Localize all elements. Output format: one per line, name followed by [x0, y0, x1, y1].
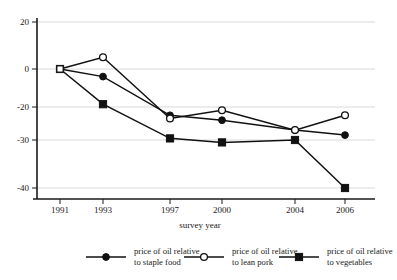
data-point-filled-square: [218, 139, 225, 146]
data-point-filled-square: [341, 184, 348, 191]
y-tick-label-neg20: -20: [17, 102, 29, 112]
data-point-filled-circle: [219, 117, 226, 124]
series-line-1: [60, 57, 345, 130]
x-tick-label-1993: 1993: [94, 205, 113, 215]
data-point-filled-circle: [342, 132, 349, 139]
data-point-open-circle: [342, 112, 349, 119]
x-tick-label-2000: 2000: [213, 205, 232, 215]
legend-label-vegetables-line1: price of oil relative: [327, 248, 393, 256]
data-point-filled-square: [291, 136, 298, 143]
data-point-open-circle: [219, 107, 226, 114]
y-tick-label-neg30: -30: [17, 135, 29, 145]
y-tick-label-0: 0: [25, 64, 30, 74]
y-tick-label-20: 20: [20, 17, 30, 27]
data-point-open-circle: [100, 54, 107, 61]
series-2: [56, 65, 348, 191]
x-tick-label-2004: 2004: [286, 205, 305, 215]
data-point-filled-square: [99, 101, 106, 108]
legend-label-lean-pork-line2: to lean pork: [232, 257, 274, 267]
legend-label-staple-food-line2: to staple food: [134, 257, 181, 267]
data-point-open-circle: [292, 127, 299, 134]
filled-square-icon: [295, 253, 302, 260]
y-tick-label-neg40: -40: [17, 183, 29, 193]
series-layer: [56, 54, 348, 192]
data-point-open-circle: [167, 115, 174, 122]
series-1: [57, 54, 349, 134]
x-tick-label-1997: 1997: [161, 205, 180, 215]
legend-label-vegetables-line2: to vegetables: [327, 257, 373, 267]
x-axis-title: survey year: [179, 220, 221, 230]
data-point-filled-square: [166, 135, 173, 142]
x-tick-label-2006: 2006: [336, 205, 355, 215]
legend-vegetables-svg: price of oil relative to vegetables: [277, 248, 397, 274]
data-point-filled-circle: [100, 73, 107, 80]
data-point-origin-marker: [57, 66, 63, 72]
x-tick-label-1991: 1991: [51, 205, 69, 215]
legend-item-vegetables[interactable]: price of oil relative to vegetables: [277, 248, 397, 278]
gridlines: [37, 22, 375, 188]
filled-circle-icon: [103, 254, 110, 261]
open-circle-icon: [201, 254, 208, 261]
